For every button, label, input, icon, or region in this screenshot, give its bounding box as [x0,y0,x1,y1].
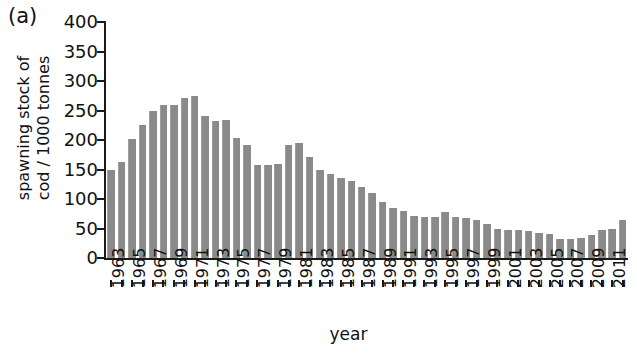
bar-slot [221,22,231,258]
x-label-slot: 1979 [273,266,283,326]
plot-area [104,22,628,258]
bar-slot [294,22,304,258]
x-axis-tick-labels: 1963196519671969197119731975197719791981… [106,266,628,326]
x-label-slot: 1993 [419,266,429,326]
bar-slot [492,22,502,258]
x-label-slot [576,266,586,326]
bar [274,164,281,258]
x-label-slot [283,266,293,326]
bar [264,165,271,258]
bar-slot [398,22,408,258]
bar [181,98,188,258]
bar-slot [190,22,200,258]
bar [348,181,355,258]
x-label-slot [409,266,419,326]
bar-slot [273,22,283,258]
x-label-slot [200,266,210,326]
y-axis-tick-label: 100 [64,190,98,208]
bar-slot [544,22,554,258]
bar [139,125,146,258]
y-axis-tick-mark [97,110,104,112]
bar-slot [430,22,440,258]
x-label-slot [430,266,440,326]
bar-slot [513,22,523,258]
bar [254,165,261,258]
x-label-slot [367,266,377,326]
x-label-slot [617,266,627,326]
bar-slot [158,22,168,258]
bar-slot [503,22,513,258]
bar [201,116,208,258]
x-label-slot: 1991 [398,266,408,326]
bar [149,111,156,258]
bar [118,162,125,258]
y-axis-tick-mark [97,198,104,200]
x-label-slot [513,266,523,326]
figure-panel-a: (a) spawning stock of cod / 1000 tonnes … [0,0,637,358]
bar-slot [388,22,398,258]
y-axis-tick-label: 150 [64,161,98,179]
x-label-slot [221,266,231,326]
bar-slot [137,22,147,258]
x-label-slot: 1987 [357,266,367,326]
bar-slot [242,22,252,258]
y-axis-tick-label: 300 [64,72,98,90]
y-axis-tick-mark [97,80,104,82]
y-axis-tick-label: 250 [64,102,98,120]
x-label-slot: 1967 [148,266,158,326]
bar [191,96,198,258]
bar-slot [461,22,471,258]
bar [316,170,323,258]
y-axis-tick-label: 400 [64,13,98,31]
x-label-slot: 2009 [586,266,596,326]
x-label-slot [388,266,398,326]
bar [285,145,292,258]
x-label-slot: 1983 [315,266,325,326]
y-axis-tick-mark [97,21,104,23]
y-axis-tick-labels: 050100150200250300350400 [46,0,98,358]
bar-slot [440,22,450,258]
x-label-slot [263,266,273,326]
bar-slot [471,22,481,258]
bar [107,170,114,259]
x-label-slot: 1981 [294,266,304,326]
bar-slot [315,22,325,258]
x-label-slot: 1995 [440,266,450,326]
y-axis-title-line-1: spawning stock of [14,56,34,200]
bar-slot [283,22,293,258]
x-label-slot: 2001 [503,266,513,326]
bar-slot [450,22,460,258]
bar-slot [597,22,607,258]
bar-slot [127,22,137,258]
bar [337,178,344,258]
bar-slot [534,22,544,258]
y-axis-tick-mark [97,169,104,171]
x-label-slot: 1971 [190,266,200,326]
bar [212,121,219,258]
x-label-slot [555,266,565,326]
x-axis-title: year [0,325,637,343]
bar-slot [263,22,273,258]
bar-slot [336,22,346,258]
x-label-slot [304,266,314,326]
x-label-slot [534,266,544,326]
bar-slot [367,22,377,258]
x-label-slot [492,266,502,326]
panel-label: (a) [8,6,37,27]
bar-slot [586,22,596,258]
x-label-slot: 1973 [210,266,220,326]
bar [295,143,302,258]
x-label-slot: 1963 [106,266,116,326]
bar [327,174,334,258]
x-label-slot [242,266,252,326]
x-label-slot: 2003 [524,266,534,326]
bar-slot [169,22,179,258]
x-label-slot: 1969 [169,266,179,326]
x-label-slot: 1989 [377,266,387,326]
x-label-slot: 1965 [127,266,137,326]
bar-slot [325,22,335,258]
x-label-slot [346,266,356,326]
y-axis-tick-mark [97,228,104,230]
y-axis-tick-label: 350 [64,43,98,61]
bar [233,138,240,258]
